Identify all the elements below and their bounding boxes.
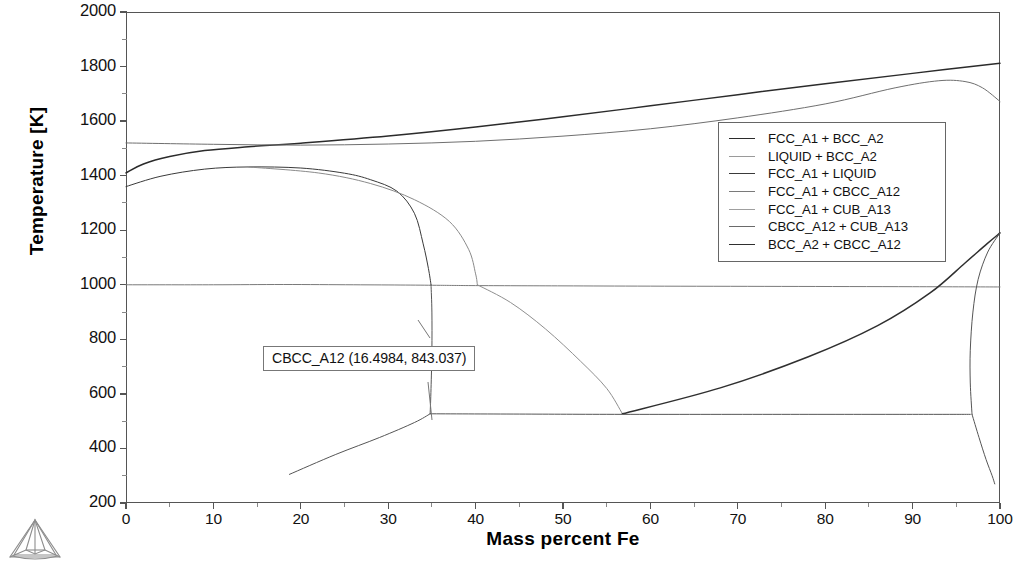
y-tick-mark [120,11,127,12]
y-tick-label: 600 [58,383,116,402]
y-tick-mark [120,339,127,340]
y-minor-tick [122,93,127,94]
y-tick-label: 1200 [58,219,116,238]
x-tick-mark [650,503,651,509]
legend-line-swatch [729,173,755,174]
legend-line-swatch [729,191,755,192]
legend-item[interactable]: CBCC_A12 + CUB_A13 [719,218,945,236]
y-minor-tick [122,202,127,203]
x-minor-tick [606,503,607,507]
y-tick-label: 1000 [58,274,116,293]
x-tick-label: 80 [795,510,855,528]
x-minor-tick [781,503,782,507]
y-minor-tick [122,366,127,367]
x-tick-label: 100 [970,510,1015,528]
legend-item[interactable]: BCC_A2 + CBCC_A12 [719,236,945,254]
legend-item-label: CBCC_A12 + CUB_A13 [768,219,908,234]
point-tooltip[interactable]: CBCC_A12 (16.4984, 843.037) [263,346,475,371]
x-tick-mark [737,503,738,509]
legend-line-swatch [729,209,755,210]
legend-line-swatch [729,156,755,157]
x-tick-label: 20 [271,510,331,528]
y-tick-mark [120,120,127,121]
y-tick-mark [120,393,127,394]
legend-line-swatch [729,226,755,227]
y-tick-mark [120,66,127,67]
legend-item[interactable]: FCC_A1 + BCC_A2 [719,130,945,148]
legend-item[interactable]: FCC_A1 + CBCC_A12 [719,183,945,201]
y-tick-label: 400 [58,437,116,456]
y-minor-tick [122,312,127,313]
x-tick-label: 90 [883,510,943,528]
y-tick-label: 1600 [58,110,116,129]
y-tick-mark [120,230,127,231]
legend-line-swatch [729,138,755,139]
x-minor-tick [169,503,170,507]
x-minor-tick [694,503,695,507]
x-tick-mark [475,503,476,509]
phase-diagram-root: 200018001600140012001000800600400200 Tem… [0,0,1015,566]
y-tick-label: 1400 [58,165,116,184]
x-tick-label: 0 [96,510,156,528]
legend-item[interactable]: FCC_A1 + LIQUID [719,165,945,183]
legend-item[interactable]: FCC_A1 + CUB_A13 [719,200,945,218]
x-tick-label: 10 [183,510,243,528]
x-tick-label: 70 [708,510,768,528]
x-tick-label: 40 [446,510,506,528]
x-minor-tick [431,503,432,507]
x-tick-mark [999,503,1000,509]
legend-item-label: FCC_A1 + LIQUID [768,166,876,181]
legend-item-label: LIQUID + BCC_A2 [768,149,877,164]
y-tick-label: 800 [58,328,116,347]
y-tick-label: 2000 [58,1,116,20]
y-axis-label: Temperature [K] [26,86,48,276]
x-tick-mark [213,503,214,509]
y-minor-tick [122,148,127,149]
x-tick-label: 50 [533,510,593,528]
x-tick-mark [300,503,301,509]
y-tick-mark [120,175,127,176]
x-tick-mark [388,503,389,509]
x-tick-label: 30 [358,510,418,528]
tetrahedron-wireframe-logo [4,516,66,562]
y-tick-label: 1800 [58,56,116,75]
y-minor-tick [122,257,127,258]
x-tick-mark [912,503,913,509]
x-tick-mark [562,503,563,509]
x-minor-tick [519,503,520,507]
legend-item[interactable]: LIQUID + BCC_A2 [719,148,945,166]
x-axis-label: Mass percent Fe [126,528,1000,550]
x-tick-mark [125,503,126,509]
y-tick-mark [120,448,127,449]
legend-item-label: FCC_A1 + BCC_A2 [768,131,883,146]
y-tick-label: 200 [58,492,116,511]
x-minor-tick [344,503,345,507]
x-minor-tick [956,503,957,507]
legend-item-label: FCC_A1 + CBCC_A12 [768,184,900,199]
x-tick-label: 60 [620,510,680,528]
y-tick-mark [120,284,127,285]
legend-item-label: BCC_A2 + CBCC_A12 [768,237,901,252]
y-minor-tick [122,421,127,422]
y-minor-tick [122,39,127,40]
y-minor-tick [122,475,127,476]
x-tick-mark [825,503,826,509]
legend-item-label: FCC_A1 + CUB_A13 [768,202,891,217]
x-minor-tick [868,503,869,507]
legend-line-swatch [729,244,755,245]
legend: FCC_A1 + BCC_A2LIQUID + BCC_A2FCC_A1 + L… [718,122,946,262]
x-minor-tick [257,503,258,507]
